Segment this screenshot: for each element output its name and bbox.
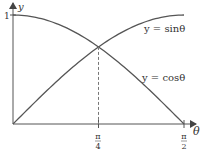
- x-tick-label-pi2-num: π: [181, 132, 186, 141]
- x-axis-label: θ: [193, 125, 200, 138]
- x-tick-label-pi4-den: 4: [95, 142, 100, 151]
- series-label-cos: y = cosθ: [141, 72, 185, 83]
- series-label-sin: y = sinθ: [143, 23, 185, 34]
- chart: y θ 1 y = sinθ y = cosθ π 4 π 2: [0, 0, 200, 160]
- x-tick-label-pi4-num: π: [95, 132, 100, 141]
- x-tick-label-pi2-den: 2: [181, 142, 186, 151]
- y-axis-label: y: [17, 1, 24, 12]
- y-tick-label-1: 1: [4, 11, 10, 21]
